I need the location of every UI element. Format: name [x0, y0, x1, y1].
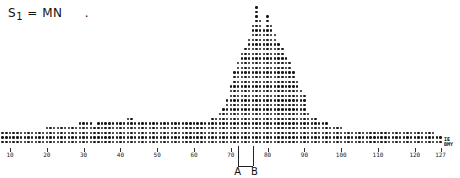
histogram-dot: [252, 29, 254, 31]
histogram-dot: [314, 122, 316, 124]
histogram-dot: [347, 136, 349, 138]
histogram-dot: [395, 136, 397, 138]
histogram-dot: [138, 122, 140, 124]
histogram-dot: [171, 127, 173, 129]
histogram-dot: [266, 48, 268, 50]
histogram-dot: [377, 141, 379, 143]
histogram-dot: [208, 136, 210, 138]
histogram-dot: [296, 132, 298, 134]
histogram-dot: [5, 132, 7, 134]
histogram-dot: [263, 136, 265, 138]
histogram-dot: [285, 76, 287, 78]
histogram-dot: [226, 136, 228, 138]
histogram-dot: [288, 136, 290, 138]
histogram-dot: [141, 136, 143, 138]
histogram-dot: [358, 132, 360, 134]
histogram-dot: [149, 136, 151, 138]
histogram-dot: [285, 141, 287, 143]
histogram-dot: [1, 136, 3, 138]
histogram-dot: [38, 132, 40, 134]
histogram-dot: [340, 132, 342, 134]
histogram-dot: [49, 136, 51, 138]
histogram-dot: [266, 67, 268, 69]
histogram-dot: [189, 136, 191, 138]
histogram-dot: [270, 48, 272, 50]
histogram-dot: [152, 132, 154, 134]
histogram-dot: [248, 67, 250, 69]
histogram-dot: [358, 141, 360, 143]
histogram-dot: [9, 132, 11, 134]
histogram-dot: [266, 29, 268, 31]
histogram-dot: [277, 99, 279, 101]
histogram-dot: [425, 136, 427, 138]
histogram-dot: [281, 67, 283, 69]
histogram-dot: [373, 132, 375, 134]
histogram-dot: [244, 57, 246, 59]
histogram-dot: [292, 108, 294, 110]
histogram-dot: [31, 141, 33, 143]
histogram-dot: [266, 43, 268, 45]
histogram-dot: [112, 127, 114, 129]
histogram-dot: [174, 127, 176, 129]
histogram-dot: [428, 136, 430, 138]
histogram-dot: [204, 132, 206, 134]
histogram-dot: [259, 104, 261, 106]
histogram-dot: [277, 67, 279, 69]
histogram-dot: [156, 132, 158, 134]
histogram-dot: [281, 95, 283, 97]
histogram-dot: [79, 136, 81, 138]
histogram-dot: [189, 132, 191, 134]
histogram-dot: [101, 127, 103, 129]
histogram-dot: [300, 95, 302, 97]
histogram-dot: [428, 132, 430, 134]
histogram-dot: [46, 132, 48, 134]
histogram-dot: [303, 127, 305, 129]
histogram-dot: [233, 141, 235, 143]
histogram-dot: [417, 132, 419, 134]
histogram-dot: [377, 136, 379, 138]
histogram-dot: [266, 53, 268, 55]
histogram-dot: [266, 136, 268, 138]
histogram-dot: [134, 136, 136, 138]
histogram-dot: [300, 113, 302, 115]
histogram-dot: [270, 76, 272, 78]
histogram-dot: [237, 108, 239, 110]
histogram-dot: [425, 141, 427, 143]
histogram-dot: [274, 90, 276, 92]
histogram-dot: [112, 136, 114, 138]
histogram-dot: [292, 127, 294, 129]
histogram-dot: [259, 90, 261, 92]
histogram-dot: [193, 141, 195, 143]
histogram-dot: [263, 71, 265, 73]
histogram-dot: [119, 122, 121, 124]
histogram-dot: [248, 95, 250, 97]
histogram-dot: [248, 39, 250, 41]
histogram-dot: [322, 136, 324, 138]
marker-a-label: A: [234, 166, 241, 177]
histogram-dot: [123, 132, 125, 134]
histogram-dot: [97, 132, 99, 134]
histogram-dot: [307, 118, 309, 120]
histogram-dot: [425, 132, 427, 134]
histogram-dot: [130, 132, 132, 134]
histogram-dot: [244, 141, 246, 143]
histogram-dot: [311, 141, 313, 143]
histogram-dot: [233, 81, 235, 83]
histogram-dot: [233, 76, 235, 78]
histogram-dot: [336, 127, 338, 129]
histogram-dot: [130, 141, 132, 143]
histogram-dot: [274, 53, 276, 55]
histogram-dot: [270, 127, 272, 129]
histogram-dot: [285, 104, 287, 106]
histogram-dot: [274, 71, 276, 73]
histogram-dot: [266, 85, 268, 87]
histogram-dot: [307, 141, 309, 143]
histogram-dot: [241, 71, 243, 73]
histogram-dot: [281, 127, 283, 129]
histogram-dot: [285, 136, 287, 138]
histogram-dot: [49, 132, 51, 134]
histogram-dot: [255, 99, 257, 101]
histogram-dot: [226, 104, 228, 106]
histogram-dot: [248, 132, 250, 134]
histogram-dot: [333, 141, 335, 143]
